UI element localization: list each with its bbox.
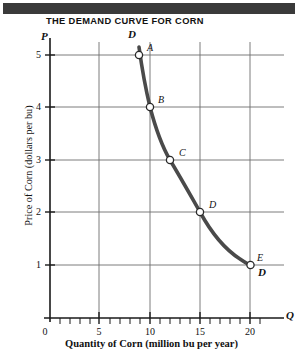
y-tick-label-1: 1	[25, 259, 41, 270]
curve-label-top: D	[128, 28, 136, 40]
y-axis-title: Price of Corn (dollars per bu)	[23, 86, 34, 246]
plot-area: P Q 5 4 3 2 1 0 5 10 15 20 Price of Corn…	[0, 0, 303, 361]
x-axis-symbol: Q	[286, 309, 294, 321]
point-label-c: C	[179, 147, 186, 158]
point-marker-c	[166, 156, 173, 163]
point-marker-e	[247, 261, 254, 268]
x-tick-label-15: 15	[190, 326, 210, 337]
x-axis-title: Quantity of Corn (million bu per year)	[0, 338, 303, 349]
curve-label-bottom: D	[258, 266, 266, 278]
demand-curve	[139, 47, 251, 266]
x-axis-minor-ticks	[60, 318, 260, 324]
x-tick-label-10: 10	[140, 326, 160, 337]
point-marker-d	[196, 208, 203, 215]
x-tick-label-20: 20	[240, 326, 260, 337]
point-label-d: D	[209, 199, 216, 210]
figure-demand-curve: THE DEMAND CURVE FOR CORN	[0, 0, 303, 361]
y-tick-label-5: 5	[25, 49, 41, 60]
y-axis-symbol: P	[41, 30, 48, 42]
point-marker-b	[146, 103, 153, 110]
point-label-a: A	[147, 42, 153, 53]
x-tick-label-5: 5	[89, 326, 109, 337]
vertical-gridlines	[99, 42, 250, 318]
chart-svg	[0, 0, 303, 361]
x-tick-label-0: 0	[35, 326, 55, 337]
point-marker-a	[135, 51, 142, 58]
point-label-e: E	[257, 252, 263, 263]
point-label-b: B	[158, 94, 164, 105]
